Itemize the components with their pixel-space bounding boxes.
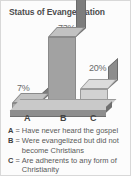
legend-equals-c: = bbox=[15, 156, 19, 166]
legend-key-a: A bbox=[8, 126, 13, 136]
legend-text-c: Are adherents to any form of Christianit… bbox=[22, 156, 128, 175]
bar-c bbox=[80, 19, 108, 111]
legend-text-a: Have never heard the gospel bbox=[22, 126, 128, 136]
legend-item-c: C = Are adherents to any form of Christi… bbox=[8, 156, 128, 175]
chart-legend: A = Have never heard the gospel B = Were… bbox=[8, 126, 128, 175]
legend-item-b: B = Were evangelized but did not become … bbox=[8, 136, 128, 155]
legend-equals-a: = bbox=[15, 126, 19, 136]
legend-text-b: Were evangelized but did not become Chri… bbox=[22, 136, 128, 155]
bar-b bbox=[48, 19, 76, 111]
chart-title: Status of Evangelization bbox=[9, 7, 105, 17]
legend-item-a: A = Have never heard the gospel bbox=[8, 126, 128, 136]
legend-key-b: B bbox=[8, 136, 13, 146]
legend-key-c: C bbox=[8, 156, 13, 166]
axis-tick-c: C bbox=[90, 113, 97, 123]
axis-tick-b: B bbox=[60, 113, 67, 123]
bar-chart-plot-area: 7% 73% 20% bbox=[1, 19, 131, 119]
legend-equals-b: = bbox=[15, 136, 19, 146]
bar-c-top-face bbox=[80, 79, 117, 89]
bar-a bbox=[12, 19, 40, 111]
category-axis: A B C bbox=[1, 113, 131, 125]
axis-tick-a: A bbox=[24, 113, 31, 123]
evangelization-chart-figure: Status of Evangelization 7% 73% 20% A B … bbox=[0, 0, 131, 176]
